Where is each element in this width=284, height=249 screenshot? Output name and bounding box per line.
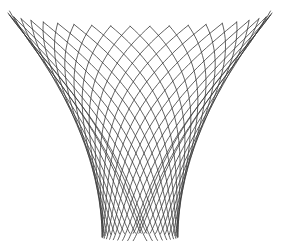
wireframe-line-clockwise xyxy=(130,26,185,236)
wireframe-line-counterclockwise xyxy=(65,24,115,234)
wireframe-line-clockwise xyxy=(133,15,270,233)
wireframe-line-clockwise xyxy=(165,24,215,234)
wireframe-line-counterclockwise xyxy=(10,15,147,233)
wireframe-line-counterclockwise xyxy=(95,26,150,236)
funnel-wireframe-drawing xyxy=(0,0,284,249)
wireframe-line-counterclockwise xyxy=(104,23,222,238)
wireframe-lines xyxy=(8,11,272,241)
wireframe-line-clockwise xyxy=(58,23,176,238)
